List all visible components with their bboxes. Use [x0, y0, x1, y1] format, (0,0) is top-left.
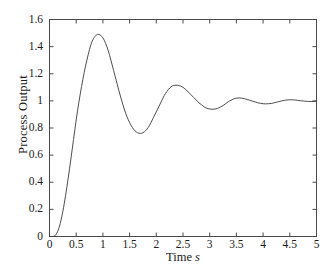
y-tick-label: 1.6 — [3, 13, 43, 25]
x-axis-unit: s — [195, 250, 200, 264]
process-output-curve — [50, 34, 317, 236]
x-axis-title: Time s — [49, 250, 317, 265]
plot-axes-frame — [50, 20, 317, 237]
line-chart-plot — [0, 0, 334, 278]
chart-figure: 00.20.40.60.811.21.41.6 00.511.522.533.5… — [0, 0, 334, 278]
x-tick-label: 5 — [297, 238, 334, 250]
y-tick-label: 0.2 — [3, 202, 43, 214]
axis-ticks — [50, 20, 317, 237]
x-axis-title-text: Time — [166, 250, 192, 264]
y-axis-title: Process Output — [16, 45, 31, 185]
